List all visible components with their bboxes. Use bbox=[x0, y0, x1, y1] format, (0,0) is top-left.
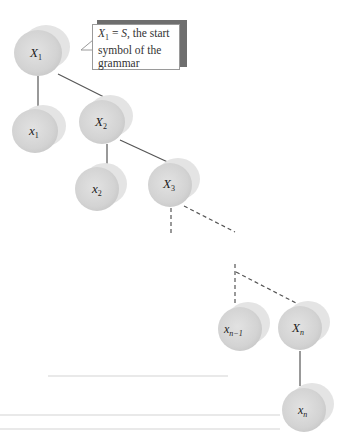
node-xn: xn bbox=[282, 383, 334, 432]
edge-X2-X3 bbox=[120, 140, 172, 164]
node-Xn: Xn bbox=[278, 301, 330, 350]
node-x1: x1 bbox=[12, 105, 66, 153]
node-xn-1: xn−1 bbox=[218, 302, 270, 351]
bleed-through-line bbox=[0, 414, 280, 416]
node-X2: X2 bbox=[79, 95, 133, 144]
edge-dashed-to-Xn bbox=[236, 272, 298, 304]
start-symbol-callout: X1 = S, the start symbol of the grammar bbox=[92, 24, 180, 70]
bleed-through-line bbox=[0, 428, 280, 430]
node-x2: x2 bbox=[75, 163, 127, 211]
bleed-through-line bbox=[48, 375, 228, 377]
node-X3: X3 bbox=[148, 158, 200, 207]
callout-lhs: X bbox=[98, 27, 105, 39]
callout-eq: = bbox=[109, 27, 121, 39]
node-X1: X1 bbox=[14, 25, 70, 76]
edge-X3-dashed-right bbox=[184, 206, 235, 232]
edge-X1-X2 bbox=[58, 74, 108, 99]
